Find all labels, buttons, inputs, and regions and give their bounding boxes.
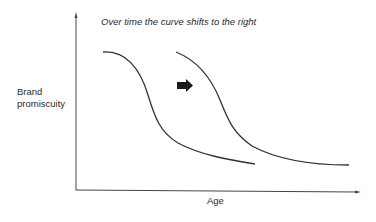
x-axis — [76, 190, 361, 194]
diagram-canvas — [0, 0, 376, 222]
y-axis — [75, 12, 78, 190]
y-axis-arrowhead-icon — [75, 12, 78, 18]
x-axis-arrowhead-icon — [355, 191, 361, 194]
shifted-curve — [176, 52, 349, 165]
current-curve — [103, 52, 255, 164]
right-arrow-icon — [177, 79, 193, 92]
